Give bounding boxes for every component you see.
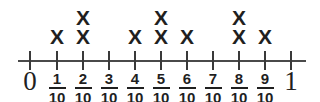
fraction-numerator: 1: [53, 71, 61, 87]
x-mark-stack: X: [176, 27, 198, 46]
fraction-numerator: 9: [261, 71, 269, 87]
x-mark: X: [258, 27, 272, 46]
tick-6: [186, 51, 188, 70]
line-plot-figure: XXXXXXXXXX 01102103104105106107108109101: [0, 0, 320, 102]
tick-2: [82, 51, 84, 70]
number-line-axis: [18, 60, 306, 62]
x-mark: X: [180, 27, 194, 46]
tick-7: [212, 51, 214, 70]
fraction-numerator: 4: [131, 71, 139, 87]
x-mark-stack: XX: [150, 8, 172, 46]
x-mark: X: [128, 27, 142, 46]
tick-4: [134, 51, 136, 70]
fraction-numerator: 5: [157, 71, 165, 87]
x-mark: X: [232, 27, 246, 46]
x-mark: X: [50, 27, 64, 46]
tick-1: [56, 51, 58, 70]
tick-5: [160, 51, 162, 70]
x-mark-stack: XX: [72, 8, 94, 46]
fraction-numerator: 7: [209, 71, 217, 87]
tick-9: [264, 51, 266, 70]
x-mark: X: [154, 27, 168, 46]
x-mark: X: [76, 27, 90, 46]
tick-3: [108, 51, 110, 70]
x-mark-stack: XX: [228, 8, 250, 46]
x-mark-stack: X: [254, 27, 276, 46]
x-mark-stack: X: [124, 27, 146, 46]
x-mark-stack: X: [46, 27, 68, 46]
axis-label-10: 1: [271, 66, 311, 96]
fraction-numerator: 2: [79, 71, 87, 87]
fraction-numerator: 8: [235, 71, 243, 87]
fraction-numerator: 3: [105, 71, 113, 87]
fraction-numerator: 6: [183, 71, 191, 87]
tick-8: [238, 51, 240, 70]
